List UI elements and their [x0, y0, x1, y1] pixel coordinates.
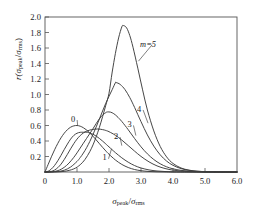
x-axis-label-numerator-sub: peak	[117, 199, 129, 206]
y-axis-label-suffix: )	[13, 38, 23, 41]
x-axis-tick-label: 0	[43, 176, 47, 186]
curve-annotation-2: 2	[114, 132, 118, 141]
annotation-leader	[133, 125, 135, 135]
x-axis-tick-label: 6.0	[232, 176, 243, 186]
curve-m-4	[45, 82, 237, 172]
y-axis-label-denominator-sub: rms	[16, 41, 23, 50]
y-axis-tick-label: 1.8	[30, 28, 41, 38]
y-axis-tick-label: 1.2	[30, 74, 41, 84]
y-axis-label-denominator: σ	[13, 50, 23, 54]
y-axis-tick-label: 0.8	[30, 105, 41, 115]
y-axis-tick-label: 0.6	[30, 121, 41, 131]
y-axis-label-numerator: σ	[13, 69, 23, 73]
y-axis-tick-label: 0.4	[30, 136, 41, 146]
y-axis-label-numerator-sub: peak	[16, 57, 23, 69]
x-axis-tick-label: 3.0	[136, 176, 147, 186]
x-axis-tick-label: 4.0	[168, 176, 179, 186]
annotation-leader	[143, 110, 148, 123]
curve-annotation-0: 0	[71, 115, 75, 124]
annotation-leader	[120, 137, 122, 146]
y-axis-label-slash: /	[13, 55, 23, 58]
figure-container: 0.20.40.60.81.01.21.41.61.82.001.02.03.0…	[0, 0, 257, 216]
y-axis-tick-label: 2.0	[30, 12, 41, 22]
curve-annotation-3: 3	[127, 120, 131, 129]
y-axis-label-prefix: r(	[13, 73, 23, 80]
curve-annotation-4: 4	[137, 105, 142, 114]
curve-annotation-m-5: m=5	[140, 40, 156, 49]
y-axis-tick-label: 0.2	[30, 152, 41, 162]
y-axis-tick-label: 1.4	[30, 59, 41, 69]
curve-annotation-1: 1	[102, 153, 106, 162]
curve-m-1	[45, 132, 237, 172]
x-axis-tick-label: 5.0	[200, 176, 211, 186]
x-axis-tick-label: 1.0	[72, 176, 83, 186]
x-axis-tick-label: 2.0	[104, 176, 115, 186]
y-axis-tick-label: 1.0	[30, 90, 41, 100]
chart-canvas: 0.20.40.60.81.01.21.41.61.82.001.02.03.0…	[0, 0, 257, 216]
y-axis-label: r(σpeak/σrms)	[13, 13, 27, 105]
x-axis-label-denominator-sub: rms	[135, 199, 144, 206]
y-axis-tick-label: 1.6	[30, 43, 41, 53]
x-axis-label: σpeak/σrms	[0, 196, 257, 206]
